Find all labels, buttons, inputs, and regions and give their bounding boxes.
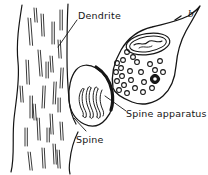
synaptic-vesicles <box>114 50 166 96</box>
label-spine: Spine <box>76 134 104 145</box>
mitochondrion <box>125 30 172 58</box>
microtubules <box>20 8 63 170</box>
axon-terminal-bouton <box>112 6 200 104</box>
diagram-canvas <box>0 0 208 175</box>
panel-letter: b <box>188 9 194 19</box>
label-dendrite: Dendrite <box>78 10 121 21</box>
figure-panel: Dendrite Spine Spine apparatus b <box>0 0 208 175</box>
dense-core-vesicle <box>150 74 159 83</box>
postsynaptic-density <box>96 67 113 110</box>
label-spine-apparatus: Spine apparatus <box>126 108 207 119</box>
spine-apparatus-lamellae <box>79 87 104 119</box>
